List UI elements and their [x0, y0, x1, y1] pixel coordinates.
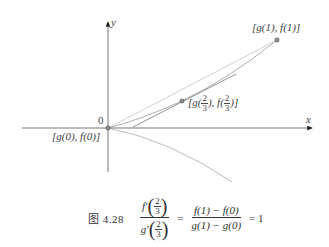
lower-curve: [108, 128, 232, 182]
x-axis-label: x: [306, 113, 311, 125]
figure-caption: 图 4.28 f′ ( 23 ) g′ ( 23 ) = f(1) − f(0)…: [88, 196, 268, 239]
point-end-label: [g(1), f(1)]: [252, 21, 300, 33]
point-mid-label: [g(23), f(23)]: [188, 94, 238, 113]
result: = 1: [249, 212, 263, 224]
point-start-label: [g(0), f(0)]: [52, 130, 100, 142]
point-origin: [106, 126, 110, 130]
lhs-fraction: f′ ( 23 ) g′ ( 23 ): [140, 196, 169, 239]
origin-label: 0: [98, 114, 104, 126]
figure-number: 图 4.28: [88, 210, 124, 226]
equals-sign: =: [177, 212, 183, 224]
chord-line: [108, 40, 277, 128]
point-mid: [180, 99, 184, 103]
y-axis-label: y: [111, 16, 116, 28]
rhs-fraction: f(1) − f(0) g(1) − g(0): [192, 204, 242, 231]
point-end: [275, 38, 279, 42]
